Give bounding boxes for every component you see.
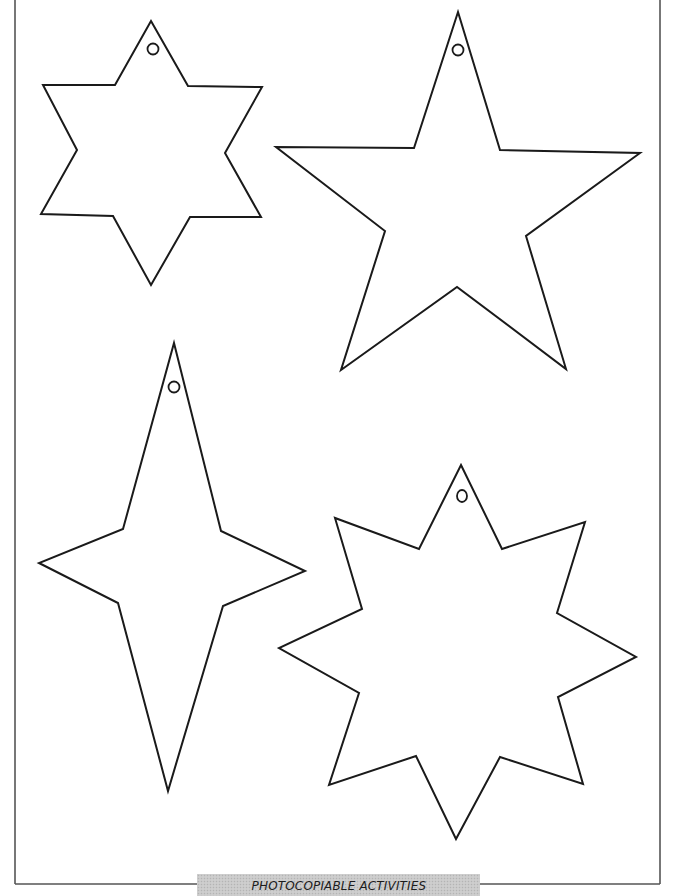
five-pointed-star-outline (276, 12, 640, 370)
footer-label: PHOTOCOPIABLE ACTIVITIES (251, 878, 426, 893)
footer-banner: PHOTOCOPIABLE ACTIVITIES (197, 874, 480, 896)
hanging-hole-icon (148, 44, 159, 55)
hanging-hole-icon (457, 490, 467, 502)
six-pointed-star-outline (41, 21, 262, 285)
eight-pointed-star-template[interactable] (279, 465, 636, 839)
eight-pointed-star-outline (279, 465, 636, 839)
six-pointed-star-template[interactable] (41, 21, 262, 285)
five-pointed-star-template[interactable] (276, 12, 640, 370)
hanging-hole-icon (169, 382, 180, 393)
four-pointed-star-outline (39, 343, 305, 791)
worksheet-canvas (0, 0, 684, 896)
hanging-hole-icon (453, 45, 464, 56)
four-pointed-star-template[interactable] (39, 343, 305, 791)
